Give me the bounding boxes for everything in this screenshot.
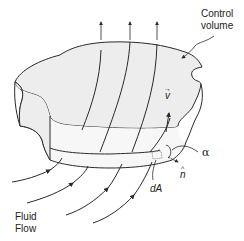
control-volume-diagram: Control volume v → α n ^ dA Fluid Flow bbox=[0, 0, 244, 241]
fluid-flow-label-line1: Fluid bbox=[15, 211, 37, 222]
inflow-streamline-2 bbox=[27, 183, 73, 203]
inflow-streamline-2-cont bbox=[73, 166, 88, 183]
inflow-streamline-4 bbox=[93, 195, 134, 223]
alpha-label: α bbox=[202, 146, 210, 159]
control-volume-label-line2: volume bbox=[201, 20, 234, 31]
inflow-streamline-1 bbox=[12, 170, 50, 182]
control-volume-leader bbox=[182, 36, 214, 58]
fluid-flow-label-line2: Flow bbox=[15, 223, 37, 234]
velocity-arrow-accent: → bbox=[164, 85, 171, 92]
inflow-streamline-3 bbox=[66, 188, 108, 215]
area-element-label: dA bbox=[150, 183, 163, 194]
control-volume-label-line1: Control bbox=[201, 8, 233, 19]
